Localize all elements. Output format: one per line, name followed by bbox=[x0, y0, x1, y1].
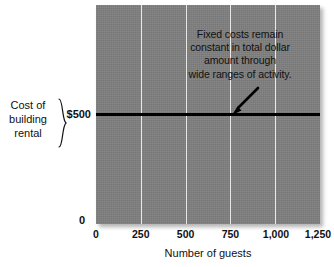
fixed-cost-chart: Fixed costs remain constant in total dol… bbox=[0, 0, 334, 267]
annotation-line-4: wide ranges of activity. bbox=[160, 68, 320, 81]
x-tick-label-0: 0 bbox=[93, 228, 99, 240]
annotation-line-1: Fixed costs remain bbox=[160, 28, 320, 41]
plot-area: Fixed costs remain constant in total dol… bbox=[96, 5, 320, 224]
x-tick-label-500: 500 bbox=[177, 228, 195, 240]
x-tick-label-250: 250 bbox=[132, 228, 150, 240]
y-axis-caption-line-1: Cost of bbox=[0, 98, 56, 112]
y-tick-label-500: $500 bbox=[67, 108, 91, 120]
fixed-cost-line bbox=[96, 113, 320, 116]
x-tick-label-1250: 1,250 bbox=[305, 228, 331, 240]
curly-brace-icon bbox=[57, 98, 69, 148]
fixed-cost-annotation: Fixed costs remain constant in total dol… bbox=[160, 28, 320, 81]
y-axis-caption: Cost of building rental bbox=[0, 98, 56, 140]
x-tick-label-750: 750 bbox=[222, 228, 240, 240]
y-tick-label-0: 0 bbox=[79, 214, 85, 226]
annotation-arrow-icon bbox=[228, 86, 262, 116]
y-axis-caption-line-3: rental bbox=[0, 126, 56, 140]
x-tick-label-1000: 1,000 bbox=[263, 228, 289, 240]
y-axis-caption-line-2: building bbox=[0, 112, 56, 126]
annotation-line-3: amount through bbox=[160, 54, 320, 67]
x-axis-title: Number of guests bbox=[96, 247, 320, 259]
annotation-line-2: constant in total dollar bbox=[160, 41, 320, 54]
